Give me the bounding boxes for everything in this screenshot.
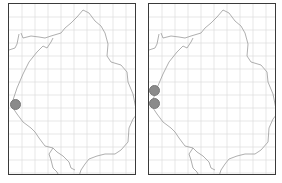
grid-lines [149, 4, 276, 175]
region-map [149, 4, 276, 175]
location-marker[interactable] [149, 98, 160, 109]
grid-lines [9, 4, 136, 175]
region-outline [9, 10, 136, 175]
map-panel-right [148, 3, 276, 175]
map-panel-left [8, 3, 136, 175]
region-outline [149, 10, 276, 175]
location-marker[interactable] [149, 85, 160, 96]
region-map [9, 4, 136, 175]
location-marker[interactable] [10, 99, 21, 110]
